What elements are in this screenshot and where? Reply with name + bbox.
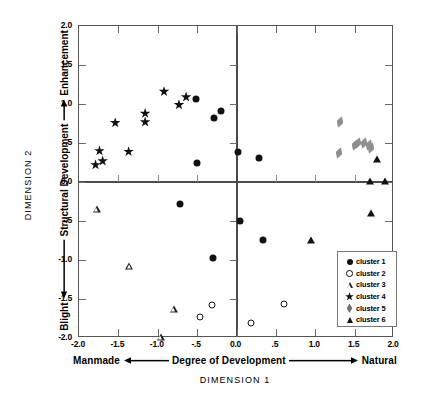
data-point-cluster-1 — [217, 108, 224, 115]
y-tick — [385, 104, 392, 105]
y-axis-center-label: Structural Development — [59, 124, 70, 237]
y-tick — [79, 65, 86, 66]
y-tick-center — [230, 221, 237, 222]
data-point-cluster-2 — [280, 301, 287, 308]
data-point-cluster-1 — [176, 200, 183, 207]
y-tick — [79, 299, 86, 300]
data-point-cluster-1 — [237, 218, 244, 225]
x-tick — [197, 329, 198, 336]
x-tick — [276, 26, 277, 33]
star-icon — [343, 292, 356, 301]
data-point-cluster-3 — [125, 263, 133, 270]
y-axis-dimension-label: DIMENSION 2 — [23, 35, 33, 335]
legend-label: cluster 2 — [356, 269, 386, 278]
x-tick-label: .5 — [260, 339, 290, 349]
data-point-cluster-4 — [110, 117, 121, 128]
x-tick-center — [355, 175, 356, 182]
x-tick — [197, 26, 198, 33]
data-point-cluster-4 — [140, 116, 151, 127]
x-tick-center — [197, 175, 198, 182]
x-tick-label: -.5 — [181, 339, 211, 349]
diamond-icon — [343, 303, 356, 313]
legend-label: cluster 4 — [356, 292, 386, 301]
down-arrow-icon — [60, 240, 69, 300]
x-axis-left-label: Manmade — [73, 355, 120, 366]
x-tick-label: 1.5 — [339, 339, 369, 349]
legend-item-4[interactable]: cluster 4 — [343, 291, 393, 303]
data-point-cluster-1 — [211, 115, 218, 122]
data-point-cluster-4 — [159, 86, 170, 97]
data-point-cluster-4 — [181, 91, 192, 102]
x-tick-center — [158, 175, 159, 182]
data-point-cluster-5 — [334, 146, 344, 160]
x-axis-annotation: Manmade Degree of Development Natural — [60, 355, 410, 366]
data-point-cluster-3 — [170, 306, 178, 313]
up-arrow-icon — [60, 99, 69, 121]
legend-item-2[interactable]: cluster 2 — [343, 268, 393, 280]
x-axis-center-label: Degree of Development — [172, 355, 286, 366]
y-tick — [79, 182, 86, 183]
data-point-cluster-6 — [381, 178, 389, 185]
y-tick — [79, 104, 86, 105]
y-tick — [79, 221, 86, 222]
data-point-cluster-3 — [93, 206, 101, 213]
left-arrow-icon — [123, 356, 169, 365]
data-point-cluster-4 — [174, 99, 185, 110]
data-point-cluster-6 — [367, 210, 375, 217]
y-tick — [79, 143, 86, 144]
x-tick-label: -1.0 — [142, 339, 172, 349]
legend-item-6[interactable]: cluster 6 — [343, 314, 393, 326]
data-point-cluster-1 — [192, 95, 199, 102]
x-axis-right-label: Natural — [362, 355, 397, 366]
data-point-cluster-4 — [94, 145, 105, 156]
data-point-cluster-6 — [373, 156, 381, 163]
x-tick — [118, 26, 119, 33]
circle-filled-icon — [343, 259, 356, 265]
x-tick — [276, 329, 277, 336]
legend-label: cluster 5 — [356, 304, 386, 313]
y-axis-bottom-label: Blight — [59, 303, 70, 331]
scatter-plot-figure: -2.0-1.5-1.0-.50.0.51.01.52.0 2.01.51.0.… — [0, 0, 431, 410]
x-tick — [118, 329, 119, 336]
x-tick-label: 2.0 — [378, 339, 408, 349]
data-point-cluster-4 — [123, 146, 134, 157]
legend: cluster 1cluster 2cluster 3cluster 4clus… — [337, 251, 397, 327]
x-tick — [158, 26, 159, 33]
data-point-cluster-1 — [255, 154, 262, 161]
y-tick-center — [230, 260, 237, 261]
y-tick-center — [230, 104, 237, 105]
x-tick — [355, 26, 356, 33]
x-tick — [237, 26, 238, 33]
data-point-cluster-4 — [97, 155, 108, 166]
legend-label: cluster 6 — [356, 315, 386, 324]
data-point-cluster-6 — [366, 178, 374, 185]
legend-item-1[interactable]: cluster 1 — [343, 256, 393, 268]
data-point-cluster-6 — [307, 236, 315, 243]
x-tick — [355, 329, 356, 336]
legend-label: cluster 3 — [356, 280, 386, 289]
y-tick — [385, 221, 392, 222]
triangle-open-icon — [343, 282, 356, 288]
right-arrow-icon — [289, 356, 359, 365]
x-axis-dimension-label: DIMENSION 1 — [60, 375, 410, 385]
x-tick — [315, 329, 316, 336]
data-point-cluster-1 — [209, 254, 216, 261]
circle-open-icon — [343, 270, 356, 277]
y-axis-zero-line — [236, 26, 238, 336]
y-tick-center — [230, 299, 237, 300]
data-point-cluster-5 — [335, 115, 345, 129]
x-tick-center — [315, 175, 316, 182]
x-tick-label: -1.5 — [102, 339, 132, 349]
legend-label: cluster 1 — [356, 257, 386, 266]
y-axis-annotation: Blight Structural Development Enhancemen… — [59, 11, 70, 351]
data-point-cluster-2 — [197, 313, 204, 320]
data-point-cluster-4 — [90, 159, 101, 170]
data-point-cluster-1 — [260, 236, 267, 243]
legend-item-5[interactable]: cluster 5 — [343, 302, 393, 314]
legend-item-3[interactable]: cluster 3 — [343, 279, 393, 291]
triangle-filled-icon — [343, 317, 356, 323]
x-tick — [315, 26, 316, 33]
y-tick — [385, 143, 392, 144]
y-tick — [79, 260, 86, 261]
data-point-cluster-2 — [247, 320, 254, 327]
